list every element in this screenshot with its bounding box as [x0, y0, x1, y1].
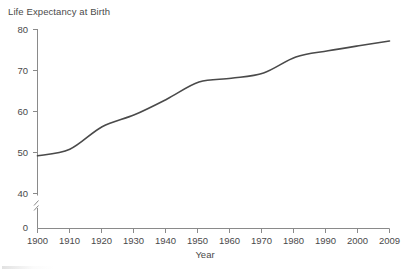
y-tick-label-40: 40: [4, 189, 28, 199]
x-axis-ticks: [38, 229, 390, 234]
y-tick-label-80: 80: [4, 25, 28, 35]
y-tick-label-0: 0: [4, 223, 28, 233]
y-tick-label-60: 60: [4, 107, 28, 117]
x-tick-label-2009: 2009: [370, 236, 410, 246]
chart-plot-area: [0, 0, 410, 273]
scan-artifact: [2, 266, 54, 269]
data-line-series: [38, 41, 390, 156]
y-tick-label-50: 50: [4, 148, 28, 158]
x-axis-title: Year: [0, 249, 410, 260]
y-tick-label-70: 70: [4, 66, 28, 76]
y-axis-ticks: [33, 30, 38, 194]
life-expectancy-chart: Life Expectancy at Birth: [0, 0, 410, 273]
